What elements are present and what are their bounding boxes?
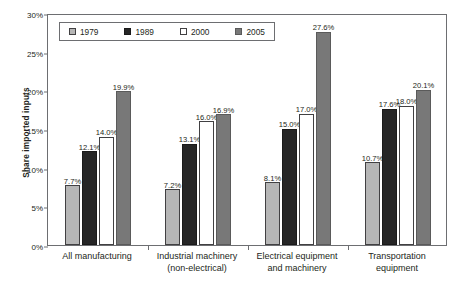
bar-2000-1[interactable]: 14.0% <box>99 137 115 245</box>
y-tick-mark <box>44 92 48 93</box>
y-tick-label: 5% <box>31 204 43 213</box>
x-tick-mark <box>248 245 249 250</box>
bar-1979-1[interactable]: 7.7% <box>65 185 81 245</box>
legend-label: 1989 <box>135 27 153 37</box>
legend-label: 2000 <box>191 27 209 37</box>
y-tick-mark <box>44 169 48 170</box>
x-category-label: All manufacturing <box>47 251 147 263</box>
legend-item-2005[interactable]: 2005 <box>235 27 264 37</box>
x-category-label: Electrical equipmentand machinery <box>247 251 347 274</box>
bar-2000-2[interactable]: 16.0% <box>199 121 215 245</box>
plot-area: 0%5%10%15%20%25%30%7.7%12.1%14.0%19.9%7.… <box>47 14 447 246</box>
bar-value-label: 20.1% <box>413 82 435 90</box>
bar-value-label: 27.6% <box>313 24 335 32</box>
bar-value-label: 14.0% <box>96 129 118 137</box>
y-tick-mark <box>44 53 48 54</box>
x-category-label-line: and machinery <box>247 263 347 275</box>
legend-swatch-icon <box>124 28 131 35</box>
bar-1989-2[interactable]: 13.1% <box>182 144 198 245</box>
bar-1979-3[interactable]: 8.1% <box>265 182 281 245</box>
x-category-label: Industrial machinery(non-electrical) <box>147 251 247 274</box>
bar-2005-4[interactable]: 20.1% <box>416 90 432 245</box>
bar-value-label: 15.0% <box>279 121 301 129</box>
bar-2000-4[interactable]: 18.0% <box>399 106 415 245</box>
bar-1989-4[interactable]: 17.6% <box>382 109 398 245</box>
bar-1979-2[interactable]: 7.2% <box>165 189 181 245</box>
bar-1989-3[interactable]: 15.0% <box>282 129 298 245</box>
x-category-label-line: equipment <box>347 263 447 275</box>
bar-value-label: 8.1% <box>264 175 281 183</box>
bar-2000-3[interactable]: 17.0% <box>299 114 315 245</box>
y-tick-label: 30% <box>27 11 43 20</box>
bar-chart: Share imported inputs 0%5%10%15%20%25%30… <box>0 0 455 294</box>
bar-2005-1[interactable]: 19.9% <box>116 91 132 245</box>
y-tick-label: 25% <box>27 49 43 58</box>
y-tick-mark <box>44 131 48 132</box>
legend-item-1989[interactable]: 1989 <box>124 27 153 37</box>
y-tick-label: 10% <box>27 165 43 174</box>
bar-value-label: 13.1% <box>179 136 201 144</box>
legend-swatch-icon <box>180 28 187 35</box>
y-tick-label: 0% <box>31 243 43 252</box>
bar-value-label: 18.0% <box>396 98 418 106</box>
legend-swatch-icon <box>235 28 242 35</box>
bar-1979-4[interactable]: 10.7% <box>365 162 381 245</box>
bar-value-label: 10.7% <box>362 155 384 163</box>
x-category-label-line: (non-electrical) <box>147 263 247 275</box>
y-tick-mark <box>44 247 48 248</box>
bar-value-label: 16.0% <box>196 114 218 122</box>
chart-legend: 1979198920002005 <box>59 22 275 41</box>
bar-value-label: 17.0% <box>296 106 318 114</box>
y-tick-label: 15% <box>27 127 43 136</box>
x-category-label-line: Electrical equipment <box>247 251 347 263</box>
bar-1989-1[interactable]: 12.1% <box>82 151 98 245</box>
y-tick-mark <box>44 208 48 209</box>
bar-value-label: 7.2% <box>164 182 181 190</box>
y-tick-label: 20% <box>27 88 43 97</box>
x-tick-mark <box>348 245 349 250</box>
bar-value-label: 16.9% <box>213 107 235 115</box>
bar-value-label: 7.7% <box>64 178 81 186</box>
bar-2005-3[interactable]: 27.6% <box>316 32 332 245</box>
bar-value-label: 19.9% <box>113 84 135 92</box>
legend-item-1979[interactable]: 1979 <box>69 27 98 37</box>
x-category-label-line: Transportation <box>347 251 447 263</box>
x-category-label: Transportationequipment <box>347 251 447 274</box>
legend-item-2000[interactable]: 2000 <box>180 27 209 37</box>
y-tick-mark <box>44 15 48 16</box>
legend-label: 2005 <box>246 27 264 37</box>
x-category-label-line: Industrial machinery <box>147 251 247 263</box>
x-tick-mark <box>148 245 149 250</box>
bar-value-label: 12.1% <box>79 144 101 152</box>
legend-swatch-icon <box>69 28 76 35</box>
legend-label: 1979 <box>80 27 98 37</box>
bar-2005-2[interactable]: 16.9% <box>216 114 232 245</box>
x-category-label-line: All manufacturing <box>47 251 147 263</box>
